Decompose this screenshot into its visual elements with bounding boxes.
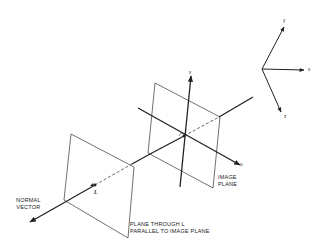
y-axis-label: y <box>283 18 285 23</box>
normal-vector-label-line2: VECTOR <box>16 204 41 211</box>
u-axis <box>138 108 240 165</box>
v-axis-label: v <box>189 70 191 75</box>
z-axis-label: z <box>284 114 286 119</box>
point-L-dot <box>94 184 97 187</box>
v-axis <box>180 76 191 187</box>
point-L-label: L <box>94 189 97 195</box>
normal-vector-label-line1: NORMAL <box>16 197 41 204</box>
z-axis <box>262 69 281 112</box>
world-axes <box>262 27 304 112</box>
plane-through-label-line2: PARALLEL TO IMAGE PLANE <box>130 228 210 235</box>
plane-through-label-line1: PLANE THROUGH L <box>130 221 210 228</box>
image-plane-label: IMAGE PLANE <box>218 174 237 188</box>
y-axis <box>262 27 284 69</box>
point-L-arrow-icon <box>90 183 94 186</box>
normal-vector-label: NORMAL VECTOR <box>16 197 41 211</box>
normal-vector <box>30 97 253 222</box>
image-plane-label-line2: PLANE <box>218 181 237 188</box>
x-axis-label: x <box>308 67 310 72</box>
diagram-canvas <box>0 0 326 247</box>
image-plane-label-line1: IMAGE <box>218 174 237 181</box>
u-axis-label: u <box>240 162 243 167</box>
plane-through-label: PLANE THROUGH L PARALLEL TO IMAGE PLANE <box>130 221 210 235</box>
plane-through-L <box>64 134 134 238</box>
x-axis <box>262 69 304 70</box>
image-center-dot <box>183 135 186 138</box>
